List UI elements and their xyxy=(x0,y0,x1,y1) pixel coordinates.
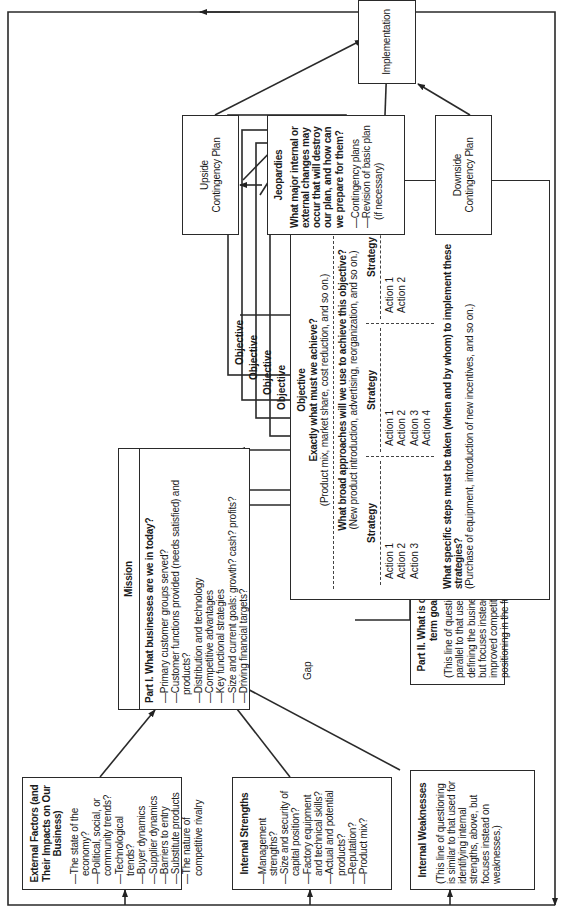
mission-title: Mission xyxy=(119,449,140,709)
internal-weaknesses-box: Internal Weaknesses (This line of questi… xyxy=(410,770,535,890)
external-factor-item: —Political, social, or community trends? xyxy=(91,783,114,884)
internal-weaknesses-body: (This line of questioning is similar to … xyxy=(435,776,503,884)
action-item: Action 2 xyxy=(396,328,409,452)
implementation-box: Implementation xyxy=(358,0,416,84)
mission-item: —Size and current goals: growth? cash? p… xyxy=(227,455,238,703)
action-item: Action 1 xyxy=(384,328,397,452)
objective-note-1: (Product mix, market share, cost reducti… xyxy=(319,191,330,589)
objective-tab: Objective xyxy=(248,335,259,380)
strategy-table: Strategy Action 1 Action 2 Action 3 Stra… xyxy=(366,191,434,589)
jeopardies-title: Jeopardies xyxy=(273,122,285,228)
divider xyxy=(333,191,334,589)
objective-question-3: What specific steps must be taken (when … xyxy=(442,191,465,589)
internal-strengths-title: Internal Strengths xyxy=(239,783,251,884)
internal-weaknesses-title: Internal Weaknesses xyxy=(417,776,429,884)
action-item: Action 3 xyxy=(409,328,422,452)
objective-tab: Objective xyxy=(262,350,273,395)
mission-item: —Competitive advantages xyxy=(204,455,215,703)
mission-item: —Distribution and technology xyxy=(193,455,204,703)
objective-tab: Objective xyxy=(276,365,287,410)
action-item: Action 3 xyxy=(409,461,422,585)
objective-card: Objective Exactly what must we achieve? … xyxy=(290,180,550,600)
internal-strength-item: —Product mix? xyxy=(358,783,369,884)
jeopardies-item: —Contingency plans xyxy=(350,122,361,228)
upside-contingency-label: Upside Contingency Plan xyxy=(199,135,222,215)
internal-strength-item: —Actual and potential products? xyxy=(324,783,347,884)
downside-contingency-box: Downside Contingency Plan xyxy=(435,115,492,235)
mission-part1-heading: Part I. What businesses are we in today? xyxy=(144,455,155,703)
implementation-label: Implementation xyxy=(381,9,392,75)
gap-label: Gap xyxy=(302,662,313,680)
objective-note-3: (Purchase of equipment, introduction of … xyxy=(464,191,475,589)
objective-title: Objective xyxy=(296,191,308,589)
mission-item: —Customer functions provided (needs sati… xyxy=(170,455,193,703)
objective-note-2: (New product introduction, advertising, … xyxy=(348,191,359,589)
strategy-header: Strategy xyxy=(366,328,381,452)
jeopardies-box: Jeopardies What major internal or extern… xyxy=(267,115,405,235)
external-factor-item: —Barriers to entry xyxy=(159,783,170,884)
external-factors-title: External Factors (and Their Impacts on O… xyxy=(29,783,64,884)
strategy-header: Strategy xyxy=(366,461,381,585)
external-factor-item: —Technological trends? xyxy=(114,783,137,884)
strategy-column: Strategy Action 1 Action 2 Action 3 xyxy=(366,457,434,589)
internal-strength-item: —Size and security of capital position? xyxy=(279,783,302,884)
internal-strength-item: —Management strengths? xyxy=(257,783,280,884)
internal-strength-item: —Factory equipment and technical skills? xyxy=(302,783,325,884)
external-factor-item: —The nature of competitive rivalry xyxy=(181,783,204,884)
strategic-planning-diagram: External Factors (and Their Impacts on O… xyxy=(0,0,562,920)
mission-item: —Primary customer groups served? xyxy=(159,455,170,703)
external-factor-item: —Substitute products xyxy=(170,783,181,884)
mission-item: —Driving financial targets? xyxy=(238,455,249,703)
objective-question-2: What broad approaches will we use to ach… xyxy=(337,191,348,589)
downside-contingency-label: Downside Contingency Plan xyxy=(452,135,475,215)
external-factor-item: —Buyer dynamics xyxy=(136,783,147,884)
jeopardies-question: What major internal or external changes … xyxy=(289,122,345,228)
action-item: Action 2 xyxy=(396,461,409,585)
upside-contingency-box: Upside Contingency Plan xyxy=(182,115,239,235)
action-item: Action 4 xyxy=(421,328,434,452)
objective-question-1: Exactly what must we achieve? xyxy=(308,191,319,589)
external-factor-item: —The state of the economy? xyxy=(69,783,92,884)
jeopardies-item: —Revision of basic plan (if necessary) xyxy=(361,122,384,228)
objective-tab: Objective xyxy=(234,320,245,365)
internal-strength-item: —Reputation? xyxy=(347,783,358,884)
strategy-column: Strategy Action 1 Action 2 Action 3 Acti… xyxy=(366,324,434,457)
mission-box: Mission Part I. What businesses are we i… xyxy=(118,448,250,710)
internal-strengths-box: Internal Strengths —Management strengths… xyxy=(232,777,392,890)
external-factor-item: —Supplier dynamics xyxy=(148,783,159,884)
action-item: Action 1 xyxy=(384,461,397,585)
external-factors-box: External Factors (and Their Impacts on O… xyxy=(22,777,182,890)
mission-item: —Key functional strategies xyxy=(215,455,226,703)
